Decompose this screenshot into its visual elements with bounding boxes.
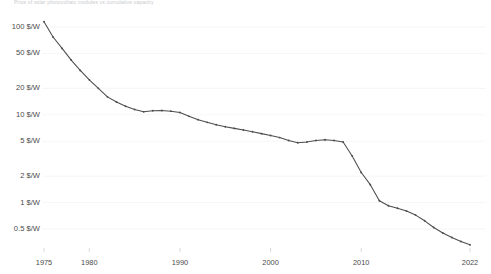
data-point-marker — [188, 115, 190, 117]
data-point-marker — [161, 110, 163, 112]
gridlines-group — [42, 27, 486, 229]
data-point-marker — [406, 210, 408, 212]
data-point-marker — [79, 69, 81, 71]
data-point-marker — [270, 135, 272, 137]
data-point-marker — [197, 119, 199, 121]
data-point-marker — [61, 47, 63, 49]
data-point-marker — [215, 124, 217, 126]
data-point-marker — [324, 139, 326, 141]
data-point-marker — [415, 214, 417, 216]
data-point-marker — [342, 141, 344, 143]
data-point-marker — [315, 140, 317, 142]
y-axis-tick-label: 5 $/W — [20, 136, 41, 145]
y-axis-tick-label: 0.5 $/W — [14, 224, 41, 233]
data-point-marker — [460, 241, 462, 243]
data-point-marker — [433, 227, 435, 229]
data-point-marker — [288, 140, 290, 142]
data-point-marker — [424, 220, 426, 222]
y-axis-tick-label: 20 $/W — [16, 83, 41, 92]
data-point-marker — [125, 105, 127, 107]
data-point-marker — [107, 96, 109, 98]
data-point-marker — [206, 121, 208, 123]
chart-plot-area: 100 $/W50 $/W20 $/W10 $/W5 $/W2 $/W1 $/W… — [0, 0, 491, 274]
data-point-marker — [143, 111, 145, 113]
data-point-marker — [333, 140, 335, 142]
data-point-marker — [387, 205, 389, 207]
x-axis-tick-label: 1990 — [172, 258, 188, 267]
x-axis-tick-label: 1980 — [81, 258, 97, 267]
series-markers — [43, 21, 471, 246]
data-point-marker — [378, 200, 380, 202]
data-point-marker — [469, 244, 471, 246]
y-axis-tick-label: 1 $/W — [20, 198, 41, 207]
data-point-marker — [297, 142, 299, 144]
data-point-marker — [233, 127, 235, 129]
y-axis-tick-labels: 100 $/W50 $/W20 $/W10 $/W5 $/W2 $/W1 $/W… — [12, 22, 41, 233]
data-point-marker — [351, 155, 353, 157]
data-point-marker — [242, 129, 244, 131]
x-axis-tick-labels: 197519801990200020102022 — [36, 248, 478, 267]
y-axis-tick-label: 100 $/W — [12, 22, 41, 31]
y-axis-tick-label: 50 $/W — [16, 48, 41, 57]
data-point-marker — [52, 36, 54, 38]
y-axis-tick-label: 2 $/W — [20, 171, 41, 180]
data-point-marker — [134, 109, 136, 111]
data-point-marker — [224, 126, 226, 128]
x-axis-tick-label: 2000 — [262, 258, 278, 267]
data-point-marker — [70, 59, 72, 61]
data-point-marker — [306, 141, 308, 143]
data-point-marker — [369, 184, 371, 186]
x-axis-tick-label: 2022 — [462, 258, 478, 267]
data-point-marker — [360, 172, 362, 174]
y-axis-tick-label: 10 $/W — [16, 110, 41, 119]
data-point-marker — [170, 110, 172, 112]
x-axis-tick-label: 1975 — [36, 258, 52, 267]
data-point-marker — [261, 133, 263, 135]
data-point-marker — [116, 101, 118, 103]
data-point-marker — [279, 137, 281, 139]
data-point-marker — [442, 232, 444, 234]
data-point-marker — [451, 237, 453, 239]
solar-price-chart: Price of solar photovoltaic modules vs c… — [0, 0, 491, 274]
data-point-marker — [97, 87, 99, 89]
data-point-marker — [252, 131, 254, 133]
data-point-marker — [88, 79, 90, 81]
x-axis-tick-label: 2010 — [353, 258, 369, 267]
data-point-marker — [152, 110, 154, 112]
data-point-marker — [179, 112, 181, 114]
data-point-marker — [397, 207, 399, 209]
data-point-marker — [43, 21, 45, 23]
